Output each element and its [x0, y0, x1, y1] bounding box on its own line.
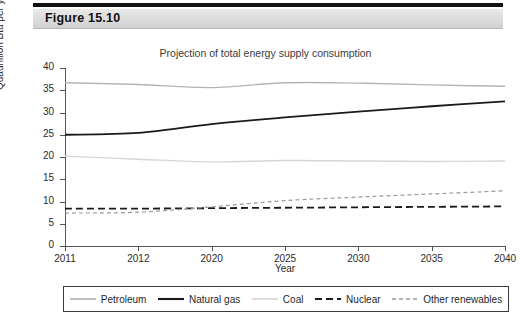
y-axis-tick-label: 30 — [14, 106, 54, 117]
y-axis-tick-label: 15 — [14, 172, 54, 183]
legend-label: Nuclear — [346, 294, 380, 305]
legend-swatch-icon — [392, 294, 418, 304]
legend-item-other-renewables[interactable]: Other renewables — [392, 294, 502, 305]
chart-region: Projection of total energy supply consum… — [0, 30, 531, 280]
legend-swatch-icon — [158, 294, 184, 304]
series-line-natural-gas — [65, 101, 505, 134]
x-axis-tick-mark — [212, 246, 213, 251]
x-axis-title: Year — [65, 263, 505, 274]
legend-swatch-icon — [315, 294, 341, 304]
y-axis-tick-label: 20 — [14, 150, 54, 161]
series-line-petroleum — [65, 82, 505, 87]
legend-item-petroleum[interactable]: Petroleum — [70, 294, 147, 305]
y-axis-tick-label: 0 — [14, 239, 54, 250]
legend-swatch-icon — [70, 294, 96, 304]
legend-item-coal[interactable]: Coal — [252, 294, 304, 305]
legend-label: Other renewables — [423, 294, 502, 305]
x-axis-tick-mark — [285, 246, 286, 251]
legend-label: Petroleum — [101, 294, 147, 305]
figure-header: Figure 15.10 — [0, 0, 531, 30]
series-plot-area — [65, 68, 505, 246]
series-line-coal — [65, 156, 505, 162]
x-axis-tick-mark — [358, 246, 359, 251]
y-axis-title: Quadrillion Btu per year — [0, 0, 5, 90]
series-line-nuclear — [65, 206, 505, 208]
legend-label: Coal — [283, 294, 304, 305]
y-axis-tick-label: 25 — [14, 128, 54, 139]
y-axis-tick-label: 5 — [14, 217, 54, 228]
legend-item-nuclear[interactable]: Nuclear — [315, 294, 380, 305]
legend-swatch-icon — [252, 294, 278, 304]
y-axis-tick-label: 40 — [14, 61, 54, 72]
series-line-other-renewables — [65, 191, 505, 213]
x-axis-tick-mark — [432, 246, 433, 251]
x-axis-tick-mark — [65, 246, 66, 251]
x-axis-tick-mark — [505, 246, 506, 251]
legend-item-natural-gas[interactable]: Natural gas — [158, 294, 240, 305]
header-rule — [33, 3, 503, 7]
figure-label: Figure 15.10 — [45, 11, 120, 25]
y-axis-tick-label: 10 — [14, 195, 54, 206]
x-axis-tick-mark — [138, 246, 139, 251]
legend-label: Natural gas — [189, 294, 240, 305]
y-axis-tick-label: 35 — [14, 83, 54, 94]
chart-legend: PetroleumNatural gasCoalNuclearOther ren… — [63, 286, 509, 312]
chart-title: Projection of total energy supply consum… — [0, 47, 531, 59]
